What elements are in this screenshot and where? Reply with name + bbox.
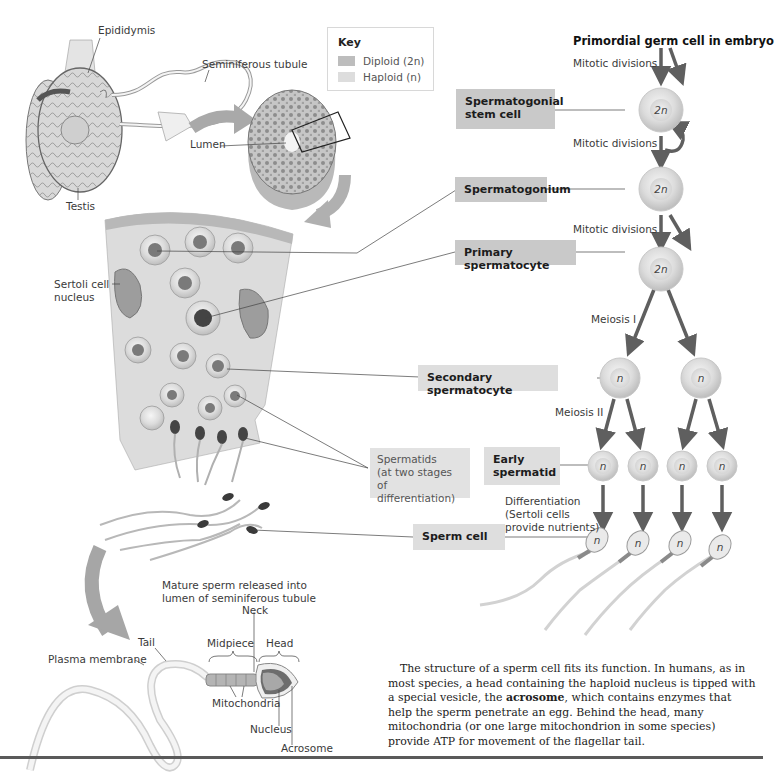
stage-secondary-spermatocyte: Secondary spermatocyte xyxy=(418,365,558,391)
stage-spermatogonium: Spermatogonium xyxy=(455,177,547,202)
label-mature-sperm-released: Mature sperm released into lumen of semi… xyxy=(162,579,316,605)
sertoli-line1: Sertoli cell xyxy=(54,278,109,291)
legend-label-haploid: Haploid (n) xyxy=(363,71,421,83)
label-nucleus: Nucleus xyxy=(250,723,292,736)
ploidy-label: 2n xyxy=(654,104,667,116)
flow-sperm-cells xyxy=(480,524,736,635)
diploid-swatch xyxy=(338,56,355,66)
process-label-mitotic-1: Mitotic divisions xyxy=(573,57,657,70)
process-label-mitotic-2: Mitotic divisions xyxy=(573,137,657,150)
process-label-mitotic-3: Mitotic divisions xyxy=(573,223,657,236)
ploidy-label: 2n xyxy=(654,183,667,195)
tubule-wall-detail xyxy=(105,213,293,485)
ploidy-label: n xyxy=(617,372,624,384)
mature-sperm-line2: lumen of seminiferous tubule xyxy=(162,592,316,605)
ploidy-label: n xyxy=(679,460,686,472)
spermatids-note: Spermatids (at two stages of differentia… xyxy=(370,448,470,498)
legend-title: Key xyxy=(338,36,361,49)
spermatids-note-line1: Spermatids xyxy=(377,453,463,466)
stage-sperm-cell: Sperm cell xyxy=(413,524,505,550)
label-tail: Tail xyxy=(138,636,155,649)
stage-primary-spermatocyte: Primary spermatocyte xyxy=(455,240,576,265)
tubule-cross-section xyxy=(248,90,350,210)
label-epididymis: Epididymis xyxy=(98,24,155,37)
ploidy-label: n xyxy=(600,460,607,472)
ploidy-label: n xyxy=(594,534,601,546)
differentiation-line2: (Sertoli cells xyxy=(505,508,599,521)
legend-key: Key Diploid (2n) Haploid (n) xyxy=(327,27,434,91)
stage-label-line2: stem cell xyxy=(465,108,546,121)
stage-spermatogonial-stem-cell: Spermatogonial stem cell xyxy=(456,89,555,129)
body-text-bold-term: acrosome xyxy=(506,691,565,704)
ploidy-label: n xyxy=(677,537,684,549)
sertoli-line2: nucleus xyxy=(54,291,109,304)
flow-origin-heading: Primordial germ cell in embryo xyxy=(573,34,774,48)
spermatids-note-line2: (at two stages of xyxy=(377,466,463,492)
haploid-swatch xyxy=(338,72,355,82)
label-acrosome: Acrosome xyxy=(281,742,333,755)
stage-label-line1: Spermatogonial xyxy=(465,95,546,108)
sperm-structure-diagram xyxy=(30,612,299,770)
stage-label-line2: spermatid xyxy=(493,466,551,479)
ploidy-label: 2n xyxy=(654,263,667,275)
label-mitochondria: Mitochondria xyxy=(212,697,280,710)
stage-early-spermatid: Early spermatid xyxy=(484,447,560,485)
label-head: Head xyxy=(266,637,293,650)
legend-label-diploid: Diploid (2n) xyxy=(363,55,424,67)
process-label-meiosis-1: Meiosis I xyxy=(591,313,636,326)
label-midpiece: Midpiece xyxy=(207,637,254,650)
legend-item-diploid: Diploid (2n) xyxy=(338,55,424,67)
body-paragraph: The structure of a sperm cell fits its f… xyxy=(388,662,756,750)
label-seminiferous-tubule: Seminiferous tubule xyxy=(202,58,307,71)
ploidy-label: n xyxy=(698,372,705,384)
bottom-rule xyxy=(0,756,763,759)
differentiation-line1: Differentiation xyxy=(505,495,599,508)
spermatids-note-line3: differentiation) xyxy=(377,492,463,505)
ploidy-label: n xyxy=(717,541,724,553)
label-lumen: Lumen xyxy=(190,138,226,151)
ploidy-label: n xyxy=(640,460,647,472)
stage-label-line1: Early xyxy=(493,453,551,466)
label-plasma-membrane: Plasma membrane xyxy=(48,653,147,666)
label-testis: Testis xyxy=(66,200,95,213)
process-label-differentiation: Differentiation (Sertoli cells provide n… xyxy=(505,495,599,534)
testis-illustration xyxy=(26,40,122,200)
mature-sperm-line1: Mature sperm released into xyxy=(162,579,316,592)
label-neck: Neck xyxy=(242,604,268,617)
ploidy-label: n xyxy=(635,537,642,549)
differentiation-line3: provide nutrients) xyxy=(505,521,599,534)
process-label-meiosis-2: Meiosis II xyxy=(555,406,603,419)
label-sertoli-cell-nucleus: Sertoli cell nucleus xyxy=(54,278,109,304)
legend-item-haploid: Haploid (n) xyxy=(338,71,421,83)
ploidy-label: n xyxy=(719,460,726,472)
released-sperm xyxy=(100,492,271,560)
